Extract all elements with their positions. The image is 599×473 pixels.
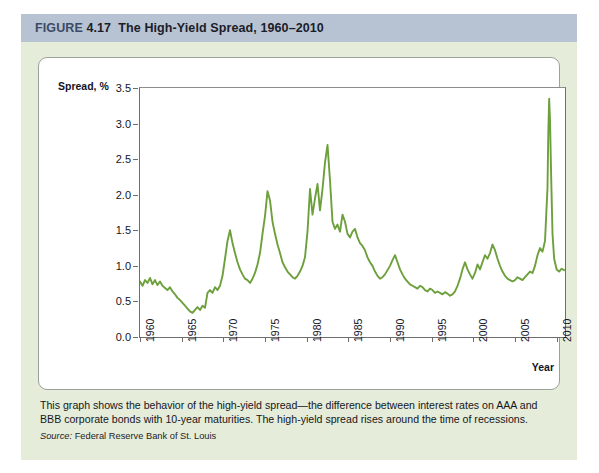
- x-tick-label: 1960: [144, 319, 156, 342]
- y-tick-label: 1.5: [101, 224, 131, 236]
- y-tick-mark: [133, 337, 138, 338]
- x-axis-title: Year: [532, 361, 554, 373]
- y-tick-mark: [133, 88, 138, 89]
- figure-title-text: The High-Yield Spread, 1960–2010: [118, 21, 324, 35]
- y-tick-label: 2.0: [101, 189, 131, 201]
- x-tick-mark: [473, 337, 474, 342]
- y-tick-mark: [133, 230, 138, 231]
- y-tick-label: 0.5: [101, 295, 131, 307]
- x-tick-mark: [140, 337, 141, 342]
- x-tick-label: 1980: [311, 319, 323, 342]
- x-tick-label: 1985: [352, 319, 364, 342]
- y-tick-label: 0.0: [101, 331, 131, 343]
- figure-source: Source: Federal Reserve Bank of St. Loui…: [40, 430, 552, 444]
- y-tick-label: 1.0: [101, 260, 131, 272]
- y-tick-label: 3.0: [101, 118, 131, 130]
- x-tick-label: 1970: [227, 319, 239, 342]
- y-tick-mark: [133, 159, 138, 160]
- figure-number: 4.17: [86, 21, 111, 35]
- figure-caption: This graph shows the behavior of the hig…: [40, 399, 552, 444]
- caption-text: This graph shows the behavior of the hig…: [40, 399, 537, 425]
- y-tick-mark: [133, 124, 138, 125]
- y-tick-mark: [133, 266, 138, 267]
- x-tick-label: 2010: [561, 319, 573, 342]
- x-tick-label: 2005: [519, 319, 531, 342]
- x-tick-label: 1995: [436, 319, 448, 342]
- x-tick-label: 2000: [477, 319, 489, 342]
- figure-block: FIGURE 4.17 The High-Yield Spread, 1960–…: [21, 14, 577, 460]
- x-tick-mark: [265, 337, 266, 342]
- x-tick-mark: [390, 337, 391, 342]
- x-tick-label: 1975: [269, 319, 281, 342]
- chart-panel: Spread, % Year 0.00.51.01.52.02.53.03.51…: [38, 57, 560, 390]
- figure-label: FIGURE: [35, 21, 83, 35]
- source-label: Source:: [40, 431, 72, 441]
- series-path: [140, 99, 564, 313]
- figure-title-bar: FIGURE 4.17 The High-Yield Spread, 1960–…: [21, 14, 577, 42]
- figure-screenshot: FIGURE 4.17 The High-Yield Spread, 1960–…: [0, 0, 599, 473]
- y-tick-mark: [133, 301, 138, 302]
- spread-line-series: [140, 88, 565, 337]
- x-tick-mark: [432, 337, 433, 342]
- x-tick-label: 1990: [394, 319, 406, 342]
- y-tick-label: 2.5: [101, 153, 131, 165]
- x-tick-mark: [307, 337, 308, 342]
- source-text: Federal Reserve Bank of St. Louis: [75, 431, 217, 441]
- x-tick-mark: [223, 337, 224, 342]
- plot-area: [139, 87, 566, 338]
- x-tick-label: 1965: [186, 319, 198, 342]
- y-tick-mark: [133, 195, 138, 196]
- y-tick-label: 3.5: [101, 82, 131, 94]
- x-tick-mark: [515, 337, 516, 342]
- figure-title: FIGURE 4.17 The High-Yield Spread, 1960–…: [35, 21, 324, 35]
- x-tick-mark: [557, 337, 558, 342]
- x-tick-mark: [348, 337, 349, 342]
- x-tick-mark: [182, 337, 183, 342]
